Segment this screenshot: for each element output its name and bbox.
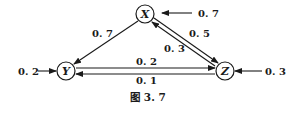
figure-caption: 图 3. 7	[130, 91, 166, 103]
edge-label-ext-to-x: 0. 7	[198, 8, 219, 19]
transition-diagram: 0. 7 0. 7 0. 5 0. 3 0. 2 0. 1 0. 2 0. 3 …	[0, 0, 298, 114]
node-y-label: Y	[62, 65, 71, 78]
edge-label-x-to-z: 0. 5	[189, 28, 210, 39]
node-z: Z	[216, 62, 234, 80]
edge-label-ext-to-y: 0. 2	[18, 66, 39, 77]
edge-label-x-to-y: 0. 7	[92, 28, 113, 39]
edge-label-y-to-z: 0. 2	[136, 56, 157, 67]
node-x: X	[136, 5, 154, 23]
node-y: Y	[57, 62, 75, 80]
node-z-label: Z	[220, 65, 230, 78]
edge-x-to-z	[154, 18, 218, 63]
edge-label-ext-to-z: 0. 3	[265, 66, 286, 77]
node-x-label: X	[140, 8, 150, 21]
edge-label-z-to-y: 0. 1	[136, 75, 157, 86]
edge-label-z-to-x: 0. 3	[164, 43, 185, 54]
